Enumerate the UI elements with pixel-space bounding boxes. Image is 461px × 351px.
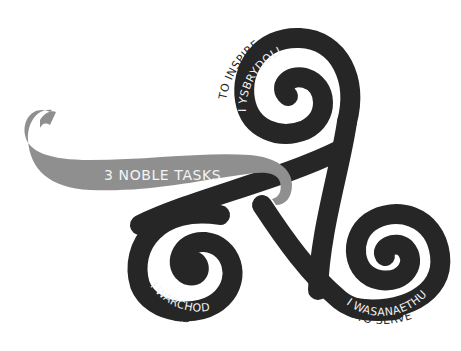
triskele-diagram: 3 NOBLE TASKS I YSBRYDOLI TO INSPIRE I W… (0, 0, 461, 351)
spiral-bottom-left (138, 213, 233, 311)
spiral-top (244, 38, 350, 134)
title-label: 3 NOBLE TASKS (104, 167, 221, 183)
